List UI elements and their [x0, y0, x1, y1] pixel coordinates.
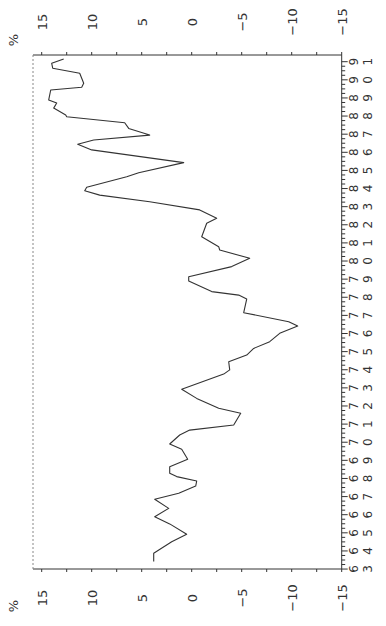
- value-axis-bottom: 151050−5−10−15: [35, 569, 350, 612]
- year-tick-label-decade: 7: [347, 348, 361, 356]
- year-tick-label-unit: 4: [361, 185, 375, 193]
- value-tick-label-top: 5: [135, 18, 150, 26]
- year-tick-label-decade: 8: [347, 221, 361, 229]
- year-tick-label-unit: 3: [361, 565, 375, 573]
- series-line: [49, 59, 298, 562]
- year-tick-label-decade: 8: [347, 148, 361, 156]
- rotated-line-chart: 151050−5−10−15 151050−5−10−15 6364656667…: [0, 0, 386, 626]
- year-tick-label-unit: 2: [361, 402, 375, 410]
- value-tick-label-bottom: −10: [285, 584, 300, 611]
- year-tick-label-decade: 6: [347, 493, 361, 501]
- year-tick-label-unit: 3: [361, 384, 375, 392]
- value-tick-label-bottom: 5: [135, 594, 150, 602]
- year-tick-label-unit: 5: [361, 529, 375, 537]
- year-tick-label-unit: 0: [361, 257, 375, 265]
- year-axis-right: 6364656667686970717273747576777879808182…: [342, 58, 375, 573]
- year-tick-label-unit: 3: [361, 203, 375, 211]
- year-tick-label-decade: 8: [347, 185, 361, 193]
- year-tick-label-unit: 2: [361, 221, 375, 229]
- value-tick-label-top: 0: [185, 18, 200, 26]
- year-tick-label-decade: 7: [347, 438, 361, 446]
- year-tick-label-unit: 4: [361, 547, 375, 555]
- year-tick-label-decade: 6: [347, 475, 361, 483]
- value-tick-label-top: −10: [285, 8, 300, 35]
- year-tick-label-decade: 8: [347, 257, 361, 265]
- year-tick-label-decade: 7: [347, 402, 361, 410]
- value-tick-label-bottom: −15: [335, 584, 350, 611]
- year-tick-label-decade: 9: [347, 76, 361, 84]
- year-tick-label-unit: 1: [361, 420, 375, 428]
- plot-frame: [33, 55, 342, 569]
- year-tick-label-decade: 8: [347, 112, 361, 120]
- year-tick-label-unit: 8: [361, 112, 375, 120]
- year-tick-label-unit: 6: [361, 148, 375, 156]
- year-tick-label-unit: 9: [361, 457, 375, 465]
- year-tick-label-decade: 7: [347, 275, 361, 283]
- year-tick-label-unit: 8: [361, 475, 375, 483]
- year-tick-label-decade: 6: [347, 529, 361, 537]
- year-tick-label-unit: 9: [361, 94, 375, 102]
- value-tick-label-bottom: −5: [235, 588, 250, 607]
- year-tick-label-unit: 1: [361, 239, 375, 247]
- value-tick-label-top: 10: [85, 14, 100, 31]
- year-tick-label-unit: 1: [361, 58, 375, 66]
- year-tick-label-unit: 6: [361, 330, 375, 338]
- value-tick-label-top: −5: [235, 12, 250, 31]
- unit-labels: %%: [6, 34, 21, 612]
- year-tick-label-decade: 8: [347, 239, 361, 247]
- year-tick-label-unit: 6: [361, 511, 375, 519]
- value-tick-label-top: −15: [335, 8, 350, 35]
- year-tick-label-unit: 7: [361, 493, 375, 501]
- year-tick-label-decade: 8: [347, 203, 361, 211]
- year-tick-label-decade: 7: [347, 384, 361, 392]
- value-tick-label-top: 15: [35, 14, 50, 31]
- year-tick-label-decade: 7: [347, 366, 361, 374]
- data-line: [49, 59, 298, 562]
- year-tick-label-decade: 8: [347, 167, 361, 175]
- percent-unit-label-bottom: %: [6, 600, 21, 612]
- year-tick-label-decade: 6: [347, 457, 361, 465]
- year-tick-label-decade: 7: [347, 312, 361, 320]
- value-axis-top: 151050−5−10−15: [35, 8, 350, 55]
- year-tick-label-unit: 8: [361, 293, 375, 301]
- year-tick-label-decade: 9: [347, 58, 361, 66]
- value-tick-label-bottom: 15: [35, 590, 50, 607]
- value-tick-label-bottom: 0: [185, 594, 200, 602]
- year-tick-label-unit: 4: [361, 366, 375, 374]
- year-tick-label-decade: 7: [347, 330, 361, 338]
- year-tick-label-decade: 8: [347, 94, 361, 102]
- year-tick-label-unit: 0: [361, 438, 375, 446]
- year-tick-label-decade: 7: [347, 420, 361, 428]
- year-tick-label-decade: 6: [347, 511, 361, 519]
- year-tick-label-decade: 8: [347, 130, 361, 138]
- year-tick-label-unit: 9: [361, 275, 375, 283]
- value-tick-label-bottom: 10: [85, 590, 100, 607]
- percent-unit-label-top: %: [6, 34, 21, 46]
- year-tick-label-decade: 6: [347, 547, 361, 555]
- year-tick-label-unit: 5: [361, 348, 375, 356]
- year-tick-label-decade: 7: [347, 293, 361, 301]
- year-tick-label-unit: 7: [361, 312, 375, 320]
- year-tick-label-unit: 5: [361, 167, 375, 175]
- year-tick-label-decade: 6: [347, 565, 361, 573]
- year-tick-label-unit: 7: [361, 130, 375, 138]
- year-tick-label-unit: 0: [361, 76, 375, 84]
